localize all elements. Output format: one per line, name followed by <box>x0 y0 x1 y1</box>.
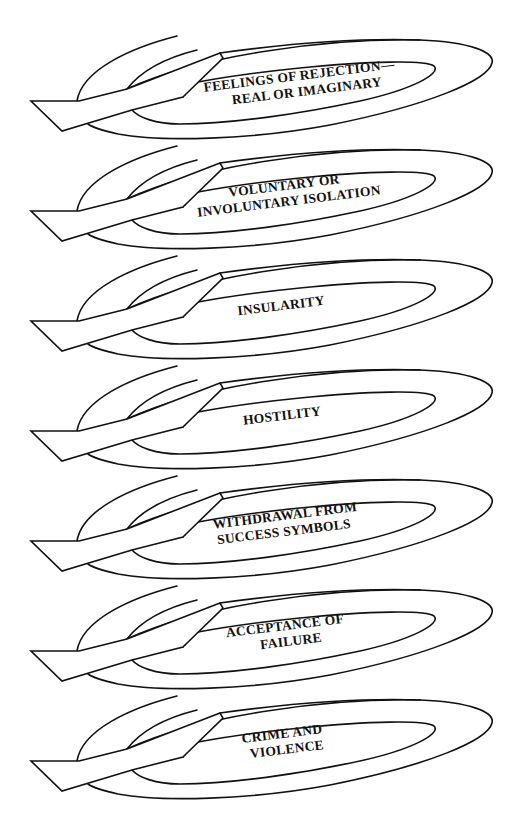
stage-unit-6: ACCEPTANCE OF FAILURE <box>31 586 492 689</box>
stage-unit-3: INSULARITY <box>31 256 492 359</box>
stage-unit-5: WITHDRAWAL FROM SUCCESS SYMBOLS <box>31 476 492 579</box>
stage-label-line: INSULARITY <box>237 293 326 319</box>
stage-unit-1: FEELINGS OF REJECTION— REAL OR IMAGINARY <box>31 36 492 139</box>
stage-unit-2: VOLUNTARY OR INVOLUNTARY ISOLATION <box>31 146 492 249</box>
progression-diagram: FEELINGS OF REJECTION— REAL OR IMAGINARY… <box>0 0 524 827</box>
stage-label-line: HOSTILITY <box>242 403 322 427</box>
stage-unit-7: CRIME AND VIOLENCE <box>31 696 492 799</box>
stage-unit-4: HOSTILITY <box>31 366 492 469</box>
